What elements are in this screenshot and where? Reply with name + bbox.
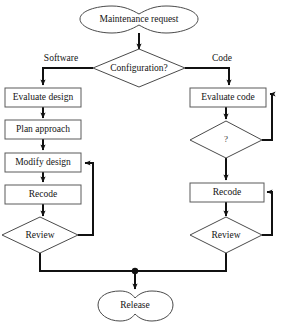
- merge-junction-dot: [132, 268, 138, 274]
- decision-question-label: ?: [224, 134, 228, 144]
- decision-configuration-label: Configuration?: [110, 63, 168, 73]
- review-left-label: Review: [25, 230, 54, 240]
- node-modify-design[interactable]: Modify design: [5, 153, 81, 172]
- node-evaluate-code[interactable]: Evaluate code: [190, 88, 266, 107]
- node-decision-configuration[interactable]: Configuration?: [93, 49, 185, 87]
- start-terminal-label: Maintenance request: [100, 14, 179, 24]
- edge-configuration-to-evaluate-code: [185, 68, 229, 85]
- modify-design-label: Modify design: [15, 157, 71, 167]
- edge-review-right-to-merge: [135, 253, 226, 271]
- evaluate-code-label: Evaluate code: [201, 92, 255, 102]
- edge-label-software: Software: [44, 53, 78, 63]
- node-recode-right[interactable]: Recode: [190, 183, 264, 202]
- node-decision-question[interactable]: ?: [190, 121, 262, 158]
- node-recode-left[interactable]: Recode: [5, 185, 81, 204]
- edge-configuration-to-evaluate-design: [43, 68, 93, 85]
- node-review-left[interactable]: Review: [2, 217, 78, 253]
- flowchart-canvas: Maintenance request Configuration? Softw…: [0, 0, 282, 330]
- edge-review-left-to-merge: [40, 253, 135, 271]
- node-start-terminal[interactable]: Maintenance request: [80, 6, 198, 33]
- evaluate-design-label: Evaluate design: [13, 92, 74, 102]
- end-terminal-label: Release: [120, 300, 150, 310]
- flowchart-svg: Maintenance request Configuration? Softw…: [0, 0, 282, 330]
- review-right-label: Review: [211, 230, 240, 240]
- node-evaluate-design[interactable]: Evaluate design: [5, 88, 81, 107]
- node-plan-approach[interactable]: Plan approach: [5, 120, 81, 139]
- recode-right-label: Recode: [213, 187, 242, 197]
- node-review-right[interactable]: Review: [190, 217, 262, 253]
- edge-label-code: Code: [212, 53, 232, 63]
- node-end-terminal[interactable]: Release: [98, 291, 173, 321]
- plan-approach-label: Plan approach: [16, 124, 70, 134]
- recode-left-label: Recode: [29, 189, 58, 199]
